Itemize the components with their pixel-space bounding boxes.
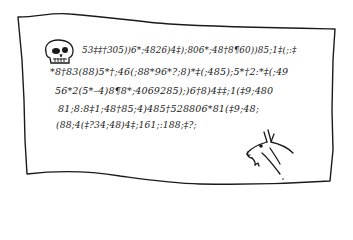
goat-kid-icon	[240, 128, 320, 184]
cipher-line-5: (88;4(‡?34;48)4‡;161;:188;‡?;	[56, 120, 197, 129]
cipher-line-3: 56*2(5*–4)8¶8*;4069285);)6†8)4‡‡;1(‡9;48…	[55, 86, 273, 96]
cipher-line-1: 53‡‡†305))6*;4826)4‡);806*;48†8¶60))85;1…	[82, 46, 297, 55]
cipher-line-2: *8†83(88)5*†;46(;88*96*?;8)*‡(;485);5*†2…	[50, 67, 288, 77]
cipher-line-4: 81;8:8‡1;48†85;4)485†528806*81(‡9;48;	[58, 104, 259, 114]
